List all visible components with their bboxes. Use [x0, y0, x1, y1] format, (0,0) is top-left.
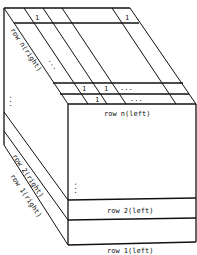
stacked-rows-diagram: 1 1 1 1 ... 1 ... ... row n(right) row 2…	[0, 0, 197, 255]
top-row-cell-a: 1	[35, 14, 39, 22]
mid-row-ellipsis: ...	[120, 84, 133, 92]
front-face	[68, 104, 196, 245]
side-vertical-ellipsis: ...	[8, 95, 16, 108]
row-1-left-label: row 1(left)	[107, 247, 153, 255]
front-vertical-ellipsis: ...	[73, 182, 81, 195]
lower-row-ellipsis: ...	[130, 95, 143, 103]
row-2-left-label: row 2(left)	[107, 207, 153, 215]
mid-row-cell-b: 1	[104, 85, 108, 93]
lower-row-cell: 1	[95, 96, 99, 104]
row-n-right-label: row n(right)	[8, 27, 43, 73]
row-n-left-label: row n(left)	[104, 110, 150, 118]
top-row-cell-b: 1	[125, 14, 129, 22]
mid-row-cell-a: 1	[82, 85, 86, 93]
